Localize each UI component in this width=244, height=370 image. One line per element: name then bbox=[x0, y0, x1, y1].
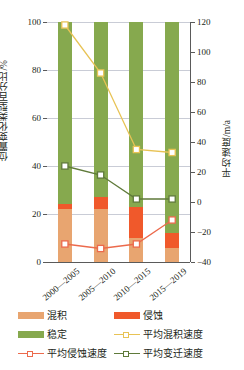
y-axis-right-tick-label: 80 bbox=[197, 78, 206, 87]
line-series-marker bbox=[62, 241, 68, 247]
legend-line-swatch bbox=[114, 349, 140, 358]
chart-legend: 混积侵蚀稳定平均混积速度平均侵蚀速度平均变迁速度 bbox=[18, 306, 230, 363]
y-axis-right-tick-label: 60 bbox=[197, 108, 206, 117]
y-axis-right-tick-label: −20 bbox=[197, 228, 211, 237]
y-axis-right-tick-mark bbox=[191, 262, 195, 263]
legend-item[interactable]: 侵蚀 bbox=[114, 310, 230, 321]
line-series-marker bbox=[98, 70, 104, 76]
legend-item-label: 平均侵蚀速度 bbox=[47, 348, 107, 359]
x-axis-tick-label: 2000—2005 bbox=[40, 266, 81, 303]
gridline bbox=[47, 262, 190, 263]
legend-item-label: 混积 bbox=[47, 310, 67, 321]
line-series-marker bbox=[169, 196, 175, 202]
line-series-marker bbox=[169, 149, 175, 155]
line-series-marker bbox=[98, 172, 104, 178]
line-series-marker bbox=[133, 241, 139, 247]
y-axis-right-tick-label: 100 bbox=[197, 48, 211, 57]
y-axis-right-tick-mark bbox=[191, 202, 195, 203]
line-series-marker bbox=[133, 196, 139, 202]
line-series-group bbox=[47, 22, 190, 262]
y-axis-right-tick-label: −40 bbox=[197, 258, 211, 267]
legend-item-label: 平均混积速度 bbox=[143, 329, 203, 340]
y-axis-left-tick-label: 40 bbox=[0, 162, 41, 171]
legend-item-label: 侵蚀 bbox=[143, 310, 163, 321]
y-axis-right-tick-mark bbox=[191, 172, 195, 173]
legend-color-swatch bbox=[18, 331, 44, 338]
legend-line-swatch bbox=[18, 349, 44, 358]
legend-item-label: 稳定 bbox=[47, 329, 67, 340]
line-series-marker bbox=[133, 146, 139, 152]
line-series-marker bbox=[169, 217, 175, 223]
line-series-path bbox=[65, 25, 172, 153]
y-axis-right-tick-label: 0 bbox=[197, 198, 202, 207]
y-axis-left-tick-label: 60 bbox=[0, 114, 41, 123]
y-axis-left-title: 位置变化类型百分比/% bbox=[0, 60, 13, 161]
x-axis-tick-label: 2015—2019 bbox=[148, 266, 189, 303]
y-axis-right-title: 平均速度/m/a bbox=[222, 120, 236, 177]
y-axis-left-tick-label: 80 bbox=[0, 66, 41, 75]
legend-item-label: 平均变迁速度 bbox=[143, 348, 203, 359]
y-axis-right-tick-mark bbox=[191, 52, 195, 53]
line-series-path bbox=[65, 220, 172, 249]
x-axis-tick-label: 2010—2015 bbox=[112, 266, 153, 303]
y-axis-right-tick-label: 20 bbox=[197, 168, 206, 177]
y-axis-right-tick-label: 120 bbox=[197, 18, 211, 27]
y-axis-right-tick-mark bbox=[191, 22, 195, 23]
y-axis-right-tick-mark bbox=[191, 142, 195, 143]
legend-item[interactable]: 平均变迁速度 bbox=[114, 348, 230, 359]
y-axis-left-tick-label: 20 bbox=[0, 210, 41, 219]
y-axis-right-tick-mark bbox=[191, 82, 195, 83]
legend-color-swatch bbox=[18, 312, 44, 319]
x-axis-tick-label: 2005—2010 bbox=[76, 266, 117, 303]
y-axis-right-tick-label: 40 bbox=[197, 138, 206, 147]
line-series-path bbox=[65, 166, 172, 199]
legend-line-swatch bbox=[114, 330, 140, 339]
legend-item[interactable]: 混积 bbox=[18, 310, 114, 321]
legend-item[interactable]: 平均混积速度 bbox=[114, 329, 230, 340]
line-series-marker bbox=[62, 163, 68, 169]
y-axis-right-tick-mark bbox=[191, 232, 195, 233]
line-series-marker bbox=[98, 245, 104, 251]
y-axis-left-tick-label: 100 bbox=[0, 18, 41, 27]
y-axis-right-tick-mark bbox=[191, 112, 195, 113]
line-series-marker bbox=[62, 22, 68, 28]
y-axis-left-tick-label: 0 bbox=[0, 258, 41, 267]
chart-figure: 位置变化类型百分比/% 平均速度/m/a 100806040200 120100… bbox=[0, 0, 244, 370]
legend-item[interactable]: 平均侵蚀速度 bbox=[18, 348, 114, 359]
legend-color-swatch bbox=[114, 312, 140, 319]
legend-item[interactable]: 稳定 bbox=[18, 329, 114, 340]
plot-area bbox=[47, 22, 190, 262]
